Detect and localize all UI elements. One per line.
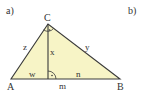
- base-m-label: m: [59, 81, 66, 91]
- vertex-a-label: A: [7, 81, 15, 92]
- segment-n-label: n: [76, 69, 81, 79]
- right-triangle: [11, 24, 120, 79]
- part-a-label: a): [6, 5, 14, 17]
- altitude-x-label: x: [50, 47, 55, 57]
- right-angle-dot-foot: [51, 75, 53, 77]
- side-z-label: z: [23, 42, 27, 52]
- segment-w-label: w: [29, 69, 36, 79]
- triangle-diagram: a) b) C A B z y x w n m: [0, 0, 143, 105]
- vertex-c-label: C: [44, 12, 51, 23]
- side-y-label: y: [85, 42, 90, 52]
- vertex-b-label: B: [117, 81, 124, 92]
- right-angle-dot-c: [49, 29, 51, 31]
- part-b-label: b): [128, 5, 136, 17]
